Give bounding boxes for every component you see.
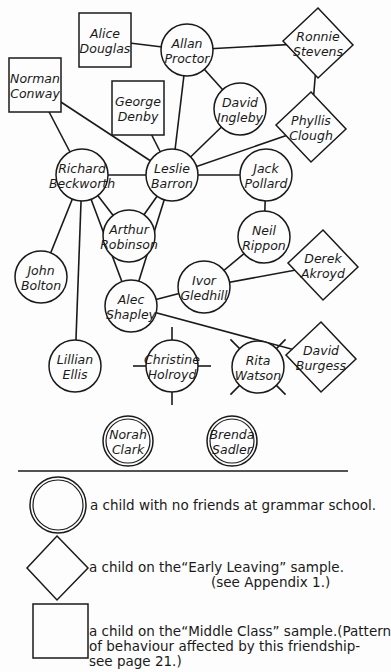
node-alice: AliceDouglas — [79, 13, 131, 67]
node-first-name: Arthur — [108, 222, 149, 237]
node-david_b: DavidBurgess — [286, 322, 356, 392]
node-rita: RitaWatson — [230, 339, 285, 394]
node-first-name: Derek — [304, 251, 342, 266]
node-jack: JackPollard — [240, 149, 292, 201]
node-first-name: Christine — [144, 352, 200, 367]
node-last-name: Denby — [118, 109, 159, 124]
friendship-edges — [35, 40, 323, 366]
node-last-name: Barron — [151, 176, 193, 191]
node-last-name: Bolton — [21, 278, 61, 293]
friendship-edge — [75, 175, 82, 366]
legend-middle-class-note: of behaviour affected by this friendship… — [89, 639, 360, 654]
node-arthur: ArthurRobinson — [100, 210, 158, 262]
node-neil: NeilRippon — [238, 211, 290, 263]
node-norah: NorahClark — [103, 416, 153, 466]
node-last-name: Pollard — [245, 176, 288, 191]
legend-middle-class-ref: see page 21.) — [89, 654, 182, 669]
node-lillian: LillianEllis — [49, 340, 101, 392]
node-first-name: Lillian — [57, 352, 94, 367]
node-brenda: BrendaSadler — [207, 416, 257, 466]
node-leslie: LeslieBarron — [146, 149, 198, 201]
node-alec: AlecShapley — [105, 280, 157, 332]
node-first-name: Jack — [250, 161, 279, 176]
node-first-name: Alec — [117, 292, 145, 307]
node-first-name: Alice — [89, 26, 120, 41]
node-david_i: DavidIngleby — [214, 83, 266, 135]
isolation-tick — [230, 339, 239, 348]
node-first-name: David — [303, 343, 339, 358]
node-last-name: Shapley — [106, 307, 157, 322]
node-derek: DerekAkroyd — [288, 230, 358, 300]
node-first-name: Phyllis — [291, 113, 331, 128]
isolation-tick — [276, 385, 285, 394]
legend-no-friends: a child with no friends at grammar schoo… — [90, 498, 376, 513]
node-last-name: Rippon — [242, 238, 286, 253]
legend-early-leaving-ref: (see Appendix 1.) — [211, 575, 330, 590]
node-first-name: Ivor — [192, 273, 217, 288]
node-last-name: Douglas — [80, 41, 131, 56]
node-first-name: Leslie — [154, 161, 190, 176]
node-last-name: Robinson — [100, 237, 158, 252]
node-first-name: Norah — [109, 427, 147, 442]
node-george: GeorgeDenby — [112, 81, 164, 135]
node-last-name: Gledhill — [180, 288, 228, 303]
node-first-name: Brenda — [210, 427, 255, 442]
node-last-name: Watson — [235, 368, 281, 383]
node-last-name: Burgess — [296, 358, 347, 373]
node-last-name: Akroyd — [300, 266, 345, 281]
isolation-tick — [230, 385, 239, 394]
node-christine: ChristineHolroyd — [133, 327, 211, 405]
node-allan: AllanProctor — [161, 24, 213, 76]
node-richard: RichardBeckworth — [49, 149, 115, 201]
legend-diamond-icon — [27, 536, 88, 600]
node-phyllis: PhyllisClough — [276, 92, 346, 162]
node-first-name: Ronnie — [296, 29, 340, 44]
node-last-name: Sadler — [212, 442, 253, 457]
node-last-name: Proctor — [165, 51, 211, 66]
node-last-name: Ellis — [63, 367, 88, 382]
legend-middle-class: a child on the“Middle Class” sample.(Pat… — [89, 624, 391, 639]
node-last-name: Conway — [10, 86, 60, 101]
node-last-name: Ingleby — [217, 110, 264, 125]
node-ivor: IvorGledhill — [178, 261, 230, 313]
legend-square-icon — [33, 604, 88, 658]
legend-early-leaving: a child on the“Early Leaving” sample. — [89, 560, 344, 575]
node-first-name: David — [222, 95, 258, 110]
node-last-name: Clough — [289, 128, 333, 143]
node-last-name: Beckworth — [49, 176, 115, 191]
node-first-name: Neil — [252, 223, 277, 238]
node-john: JohnBolton — [15, 251, 67, 303]
node-first-name: Norman — [10, 71, 60, 86]
node-first-name: Richard — [58, 161, 106, 176]
node-first-name: Rita — [246, 353, 271, 368]
node-last-name: Clark — [112, 442, 145, 457]
node-last-name: Holroyd — [148, 367, 197, 382]
node-first-name: John — [24, 263, 54, 278]
legend-double-circle-icon — [30, 477, 86, 533]
node-ronnie: RonnieStevens — [283, 8, 353, 78]
node-first-name: George — [115, 94, 161, 109]
node-first-name: Allan — [170, 36, 202, 51]
node-norman: NormanConway — [9, 58, 61, 112]
node-last-name: Stevens — [293, 44, 344, 59]
